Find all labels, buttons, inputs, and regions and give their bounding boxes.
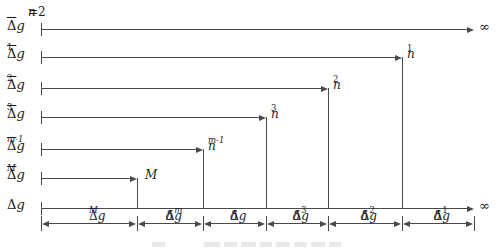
row-dgM-mean-line: [41, 178, 135, 179]
cropped-caption-fragment-8: [329, 242, 341, 247]
row-dgm1-mean-drop-line: [203, 149, 204, 208]
interval-label-2: δΔg: [203, 210, 266, 223]
row-dg3-mean-arrowhead-icon: [259, 115, 266, 121]
row-dg-mean-line: [41, 29, 472, 30]
row-dg3-mean-line: [41, 117, 264, 118]
interval-arrow-line-3: [272, 223, 322, 224]
interval-tick-6: [474, 216, 475, 231]
interval-arrow-left-icon-0: [42, 221, 49, 227]
row-dg-mean-arrowhead-icon: [467, 27, 474, 33]
row-dg-mean-end-label: ∞: [479, 20, 490, 33]
interval-label-3: δΔg3: [266, 210, 328, 223]
interval-label-1: δΔgm: [137, 210, 203, 223]
row-dg2-mean-arrowhead-icon: [321, 86, 328, 92]
interval-arrow-line-5: [408, 223, 468, 224]
cropped-caption-fragment-2: [224, 242, 237, 247]
row-dgm1-mean-line: [41, 149, 201, 150]
row-dgm1-mean-arrowhead-icon: [196, 147, 203, 153]
row-dg1-mean-arrowhead-icon: [395, 55, 402, 61]
cropped-caption-fragment-6: [294, 242, 307, 247]
row-dgM-mean-drop-line: [137, 178, 138, 208]
figure-canvas: Δg∞Δg1n1Δg2n2Δg3n3Δgm-1nm-1ΔgMMΔg∞n=2ΔgM…: [0, 0, 501, 248]
interval-arrow-right-icon-0: [129, 221, 136, 227]
interval-arrow-line-2: [209, 223, 260, 224]
row-dg3-mean-drop-line: [266, 117, 267, 208]
n-equals-2-note: n=2: [28, 6, 46, 19]
interval-label-4: δΔg2: [328, 210, 402, 223]
row-dg-axis-end-label: ∞: [479, 199, 490, 212]
row-dg1-mean-line: [41, 57, 400, 58]
interval-arrow-line-1: [143, 223, 197, 224]
cropped-caption-fragment-4: [260, 242, 272, 247]
interval-arrow-line-4: [334, 223, 396, 224]
cropped-caption-fragment-3: [241, 242, 256, 247]
row-dg2-mean-drop-line: [328, 88, 329, 208]
cropped-caption-fragment-1: [204, 242, 220, 247]
interval-arrow-line-0: [47, 223, 131, 224]
cropped-caption-fragment-7: [311, 242, 325, 247]
row-dgM-mean-arrowhead-icon: [130, 176, 137, 182]
interval-label-5: δΔg1: [402, 210, 474, 223]
row-dg-axis-line: [41, 208, 472, 209]
cropped-caption-fragment-0: [152, 242, 165, 247]
row-dg-axis-label: Δg: [7, 198, 16, 212]
row-dg1-mean-drop-line: [402, 57, 403, 208]
row-dg2-mean-line: [41, 88, 326, 89]
cropped-caption-fragment-5: [276, 242, 290, 247]
